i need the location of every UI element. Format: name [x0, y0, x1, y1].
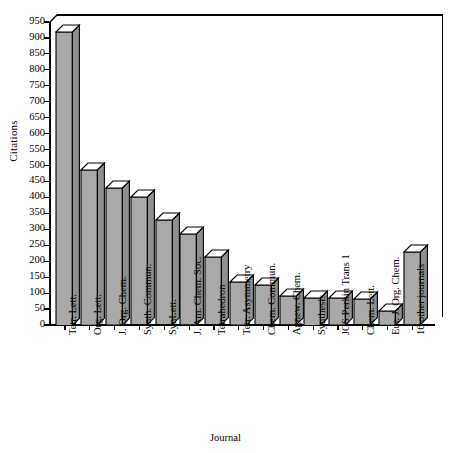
y-axis-tick-label: 500 — [7, 160, 45, 161]
x-axis-category-label: Synthesis — [317, 295, 328, 335]
y-axis-tick-label: 50 — [7, 303, 45, 304]
x-axis-category-label: Chem. Commun. — [267, 263, 278, 335]
y-axis-tick-label: 200 — [7, 255, 45, 256]
y-axis-tick-value: 900 — [29, 32, 45, 43]
y-axis-tick-value: 600 — [29, 128, 45, 139]
y-axis-tick-label: 750 — [7, 80, 45, 81]
x-axis-tick — [362, 325, 363, 330]
x-axis-tick — [263, 325, 264, 330]
y-axis-tick-value: 500 — [29, 160, 45, 171]
x-axis-tick — [238, 325, 239, 330]
plot-right-border — [442, 14, 444, 317]
y-axis-tick-value: 800 — [29, 64, 45, 75]
y-axis-tick-label: 300 — [7, 223, 45, 224]
y-axis-tick-value: 950 — [29, 16, 45, 27]
y-axis-tick-label: 0 — [7, 319, 45, 320]
x-axis-category-label: J. Org. Chem. — [118, 277, 129, 335]
y-axis-tick-label: 850 — [7, 48, 45, 49]
y-axis-tick-label: 950 — [7, 16, 45, 17]
x-axis-tick — [64, 325, 65, 330]
x-axis-category-label: Synth. Commun. — [143, 264, 154, 335]
y-axis-tick-value: 50 — [35, 303, 46, 314]
plot-top-border — [57, 14, 443, 16]
x-axis-category-label: Chem. Lett. — [366, 285, 377, 335]
x-axis-tick — [337, 325, 338, 330]
x-axis-tick — [164, 325, 165, 330]
y-axis-tick-label: 150 — [7, 271, 45, 272]
x-axis-title: Journal — [0, 432, 451, 443]
chart-figure: Citations 050100150200250300350400450500… — [0, 0, 451, 453]
x-axis-category-label: Org. Lett. — [93, 294, 104, 335]
y-axis-tick-value: 450 — [29, 175, 45, 186]
y-axis-tick-label: 800 — [7, 64, 45, 65]
x-axis-category-label: Agnew. Chem. — [292, 272, 303, 335]
x-axis-tick — [114, 325, 115, 330]
y-axis-tick-value: 700 — [29, 96, 45, 107]
y-axis-tick-label: 350 — [7, 207, 45, 208]
y-axis-tick-label: 250 — [7, 239, 45, 240]
y-axis-tick-value: 200 — [29, 255, 45, 266]
y-axis-tick-value: 400 — [29, 191, 45, 202]
y-axis-tick-value: 650 — [29, 112, 45, 123]
x-axis-tick — [387, 325, 388, 330]
x-axis-tick — [89, 325, 90, 330]
y-axis-tick-value: 0 — [40, 319, 45, 330]
x-axis-category-label: Tetrahedron — [217, 284, 228, 335]
x-axis-tick — [412, 325, 413, 330]
y-axis-line — [49, 22, 51, 325]
x-axis-category-label: Tetr. Lett. — [68, 294, 79, 335]
y-axis-tick-value: 750 — [29, 80, 45, 91]
y-axis-tick-value: 150 — [29, 271, 45, 282]
x-axis-category-label: JCS Perkin Trans 1 — [341, 254, 352, 335]
x-axis-category-label: Eur. J. Org. Chem. — [391, 257, 402, 335]
x-axis-category-label: SynLett. — [168, 299, 179, 335]
y-axis-title: Citations — [7, 106, 19, 176]
y-axis-tick-value: 850 — [29, 48, 45, 59]
y-axis-tick-value: 550 — [29, 144, 45, 155]
y-axis-tick-label: 700 — [7, 96, 45, 97]
y-axis-tick-value: 350 — [29, 207, 45, 218]
bar-1 — [56, 25, 79, 30]
x-axis-category-label: 16 other journals — [416, 264, 427, 335]
x-axis-tick — [189, 325, 190, 330]
y-axis-tick-value: 250 — [29, 239, 45, 250]
x-axis-category-label: J. Am. Chem. Soc. — [193, 257, 204, 335]
x-axis-tick — [313, 325, 314, 330]
y-axis-tick-label: 400 — [7, 191, 45, 192]
x-axis-category-label: Tetr. Asymmetry — [242, 265, 253, 335]
y-axis-tick-label: 550 — [7, 144, 45, 145]
x-axis-tick — [139, 325, 140, 330]
x-axis-tick — [213, 325, 214, 330]
y-axis-tick-label: 450 — [7, 175, 45, 176]
x-axis-tick — [288, 325, 289, 330]
y-axis-tick-value: 300 — [29, 223, 45, 234]
y-axis-tick-value: 100 — [29, 287, 45, 298]
y-axis-tick-label: 100 — [7, 287, 45, 288]
y-axis-tick-label: 650 — [7, 112, 45, 113]
y-axis-tick-label: 900 — [7, 32, 45, 33]
y-axis-tick-label: 600 — [7, 128, 45, 129]
